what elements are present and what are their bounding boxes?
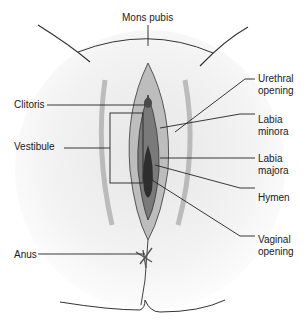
label-vaginal-opening: Vaginal opening [258,234,294,258]
label-mons-pubis: Mons pubis [122,12,173,24]
label-anus: Anus [14,249,37,261]
label-clitoris: Clitoris [14,99,45,111]
label-labia-minora: Labia minora [258,114,289,138]
label-hymen: Hymen [258,192,290,204]
label-labia-majora: Labia majora [258,153,289,177]
anatomy-diagram: Mons pubis Clitoris Vestibule Urethral o… [0,0,306,322]
label-vestibule: Vestibule [14,141,55,153]
label-urethral-opening: Urethral opening [258,73,294,97]
